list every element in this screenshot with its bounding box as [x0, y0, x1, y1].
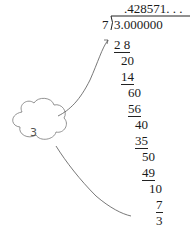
step-remainder-3: 3 — [156, 214, 163, 227]
step-remainder-40: 40 — [135, 118, 148, 131]
step-remainder-50: 50 — [142, 150, 155, 163]
step-product-28: 2 8 — [114, 38, 130, 53]
cloud-shape — [13, 98, 67, 139]
step-remainder-10: 10 — [149, 182, 162, 195]
step-product-7: 7 — [156, 198, 163, 213]
step-product-14: 14 — [121, 70, 134, 85]
step-remainder-20: 20 — [121, 54, 134, 67]
arrow-to-last-remainder — [56, 146, 131, 216]
step-product-35: 35 — [135, 134, 148, 149]
quotient: .428571. . . — [124, 2, 183, 15]
dividend: 3.000000 — [114, 18, 163, 31]
divisor: 7 — [102, 18, 109, 31]
step-remainder-60: 60 — [128, 86, 141, 99]
cloud-label: 3 — [30, 126, 37, 139]
step-product-56: 56 — [128, 102, 141, 117]
step-product-49: 49 — [142, 166, 155, 181]
arrow-to-first-step — [58, 40, 108, 116]
